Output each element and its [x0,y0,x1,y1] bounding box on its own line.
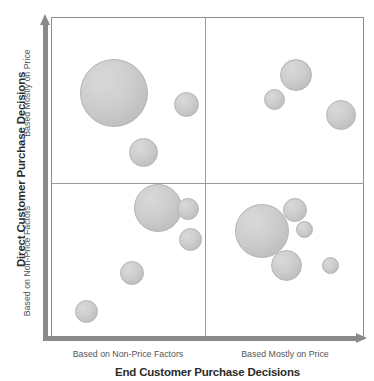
bubble-bottom-right [283,198,307,222]
y-axis-sublabel-top: Based Mostly on Price [22,38,32,148]
bubble-top-right [264,89,285,110]
x-axis-arrow-icon [356,333,367,343]
bubble-bottom-left [177,198,199,220]
bubble-bottom-right [296,221,313,238]
x-axis-line [43,336,358,341]
bubble-top-left [174,92,199,117]
bubble-top-left [80,59,148,127]
bubble-top-right [326,100,356,130]
y-axis-sublabel-bottom: Based on Non-Price Factors [22,202,32,320]
x-axis-sublabel-right: Based Mostly on Price [206,349,364,359]
bubble-top-right [280,59,312,91]
bubble-top-left [129,138,158,167]
bubble-bottom-left [179,228,202,251]
quadrant-divider-vertical [205,17,206,340]
bubble-bottom-left [134,184,182,232]
bubble-bottom-right [271,250,302,281]
bubble-bottom-left [120,261,144,285]
y-axis-arrow-icon [40,14,50,25]
bubble-bottom-left [75,300,98,323]
x-axis-title: End Customer Purchase Decisions [51,366,364,378]
bubble-bottom-right [322,257,339,274]
y-axis-line [43,24,48,340]
quadrant-divider-horizontal [51,183,364,184]
x-axis-sublabel-left: Based on Non-Price Factors [51,349,205,359]
bubble-quadrant-chart: Direct Customer Purchase Decisions Based… [0,0,374,381]
